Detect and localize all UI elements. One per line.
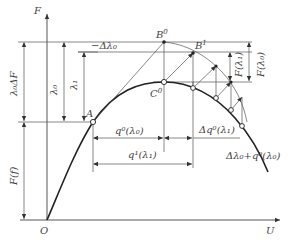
point-C0 bbox=[161, 79, 166, 84]
reference-lines bbox=[18, 42, 252, 122]
bottom-dimensions: q⁰(λ₀) q¹(λ₁) Δq⁰(λ₁) Δλ₀+q⁰(λ₀) bbox=[93, 82, 281, 172]
q1-lambda1-label: q¹(λ₁) bbox=[128, 149, 157, 160]
lambda0-label: λ₀ bbox=[48, 85, 59, 96]
point-C1 bbox=[191, 86, 196, 91]
y-axis-label: F bbox=[33, 5, 42, 16]
point-C3 bbox=[229, 108, 234, 113]
step-2 bbox=[193, 66, 216, 88]
label-A: A bbox=[85, 108, 93, 119]
delta-lambda0-plus-q0-label: Δλ₀+q⁰(λ₀) bbox=[225, 150, 281, 161]
F-lambda0-label: F(λ₀) bbox=[255, 52, 266, 78]
minus-delta-lambda0-label: −Δλ₀ bbox=[91, 40, 117, 51]
F-lambda1-label: F(λ₁) bbox=[233, 52, 244, 78]
x-axis-label: U bbox=[266, 225, 275, 236]
delta-q0-lambda1-label: Δq⁰(λ₁) bbox=[198, 124, 235, 135]
c0-b1-step bbox=[164, 53, 193, 82]
F-f-label: F(f) bbox=[8, 166, 19, 186]
point-A bbox=[90, 119, 95, 124]
label-B0: B0 bbox=[155, 28, 168, 40]
point-B3 bbox=[229, 80, 232, 83]
step-3 bbox=[216, 82, 231, 98]
label-B1: B1 bbox=[194, 39, 207, 51]
lambda1-label: λ₁ bbox=[68, 80, 79, 91]
label-C0: C0 bbox=[150, 87, 163, 99]
point-B2 bbox=[214, 64, 217, 67]
axes: F U O bbox=[20, 5, 280, 236]
pv-curve-diagram: F U O λ₀ΔF λ₀ λ₁ F(f) −Δλ₀ F(λ₀) F(λ₁) bbox=[0, 0, 288, 240]
q0-lambda0-label: q⁰(λ₀) bbox=[115, 125, 144, 136]
lambda0-deltaF-label: λ₀ΔF bbox=[8, 70, 19, 97]
point-C4 bbox=[240, 124, 245, 129]
point-C2 bbox=[214, 96, 219, 101]
left-dimensions: λ₀ΔF λ₀ λ₁ F(f) −Δλ₀ bbox=[8, 40, 117, 219]
right-dimensions: F(λ₀) F(λ₁) bbox=[230, 43, 266, 81]
origin-label: O bbox=[40, 225, 48, 236]
point-B0 bbox=[162, 40, 166, 44]
point-B1 bbox=[191, 51, 195, 55]
